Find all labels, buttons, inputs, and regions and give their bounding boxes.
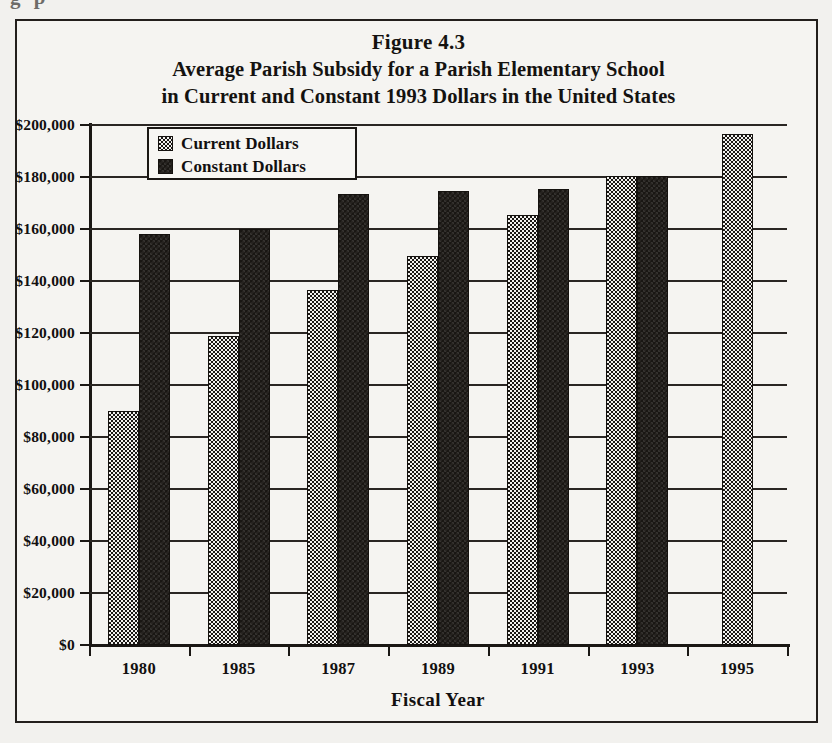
bar-1995-current xyxy=(722,134,753,645)
chart-plot-area: $0$20,000$40,000$60,000$80,000$100,000$1… xyxy=(89,125,787,645)
y-axis-tick-label: $120,000 xyxy=(15,324,75,342)
bar-1980-constant xyxy=(139,234,170,645)
legend-label-constant-dollars: Constant Dollars xyxy=(181,157,306,177)
bar-1985-current xyxy=(208,336,239,645)
y-axis-tick-mark xyxy=(80,488,90,490)
gridline xyxy=(89,124,787,126)
x-axis-tick-mark xyxy=(687,645,689,656)
figure-frame: Figure 4.3 Average Parish Subsidy for a … xyxy=(15,19,818,723)
y-axis-tick-mark xyxy=(80,436,90,438)
x-axis-tick-label-1987: 1987 xyxy=(321,659,355,679)
bar-1991-current xyxy=(507,215,538,645)
bar-1987-current xyxy=(307,290,338,645)
bar-1989-constant xyxy=(438,191,469,645)
x-axis-tick-mark xyxy=(787,645,789,656)
y-axis-tick-label: $40,000 xyxy=(23,532,75,550)
cutoff-text: g p xyxy=(10,0,49,10)
legend-item-current-dollars: Current Dollars xyxy=(158,132,355,155)
chart-legend: Current Dollars Constant Dollars xyxy=(147,127,357,180)
x-axis-tick-mark xyxy=(388,645,390,656)
x-axis-tick-label-1993: 1993 xyxy=(620,659,654,679)
y-axis-tick-label: $160,000 xyxy=(15,220,75,238)
x-axis-tick-mark xyxy=(189,645,191,656)
x-axis-tick-label-1985: 1985 xyxy=(221,659,255,679)
figure-title: Figure 4.3 Average Parish Subsidy for a … xyxy=(17,29,820,110)
y-axis-tick-label: $180,000 xyxy=(15,168,75,186)
page-text-cutoff: g p xyxy=(0,0,832,14)
y-axis-tick-mark xyxy=(80,384,90,386)
bar-1993-current xyxy=(606,176,637,645)
legend-item-constant-dollars: Constant Dollars xyxy=(158,155,355,178)
y-axis-tick-mark xyxy=(80,124,90,126)
y-axis-tick-mark xyxy=(80,280,90,282)
y-axis-tick-mark xyxy=(80,540,90,542)
y-axis-tick-label: $20,000 xyxy=(23,584,75,602)
figure-title-line-2: Average Parish Subsidy for a Parish Elem… xyxy=(17,56,820,83)
x-axis-tick-label-1991: 1991 xyxy=(521,659,555,679)
bar-1985-constant xyxy=(239,229,270,645)
y-axis-tick-label: $140,000 xyxy=(15,272,75,290)
figure-number: Figure 4.3 xyxy=(17,29,820,56)
legend-swatch-constant-dollars-icon xyxy=(158,159,173,174)
y-axis-tick-mark xyxy=(80,592,90,594)
legend-label-current-dollars: Current Dollars xyxy=(181,134,299,154)
bar-1987-constant xyxy=(338,194,369,645)
y-axis-tick-label: $0 xyxy=(59,636,75,654)
y-axis-tick-label: $60,000 xyxy=(23,480,75,498)
legend-swatch-current-dollars-icon xyxy=(158,136,173,151)
bar-1989-current xyxy=(407,256,438,645)
x-axis-tick-label-1980: 1980 xyxy=(122,659,156,679)
y-axis-tick-label: $100,000 xyxy=(15,376,75,394)
bar-1991-constant xyxy=(538,189,569,645)
y-axis-tick-label: $80,000 xyxy=(23,428,75,446)
bar-1993-constant xyxy=(637,176,668,645)
bar-1980-current xyxy=(108,411,139,645)
y-axis-tick-mark xyxy=(80,176,90,178)
y-axis-tick-mark xyxy=(80,228,90,230)
figure-title-line-3: in Current and Constant 1993 Dollars in … xyxy=(17,83,820,110)
x-axis-title: Fiscal Year xyxy=(89,689,787,711)
x-axis-tick-mark xyxy=(488,645,490,656)
y-axis-tick-mark xyxy=(80,332,90,334)
x-axis-tick-label-1989: 1989 xyxy=(421,659,455,679)
x-axis-tick-label-1995: 1995 xyxy=(720,659,754,679)
y-axis-tick-label: $200,000 xyxy=(15,116,75,134)
x-axis-tick-mark xyxy=(288,645,290,656)
x-axis-tick-mark xyxy=(89,645,91,656)
x-axis-tick-mark xyxy=(588,645,590,656)
